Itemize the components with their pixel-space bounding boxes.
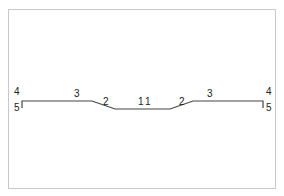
label-right-4: 4	[266, 86, 272, 97]
profile-diagram: 4 5 3 2 1 1 2 3 4 5	[0, 0, 284, 196]
label-center-1a: 1	[138, 96, 144, 107]
label-left-4: 4	[14, 86, 20, 97]
label-center-1b: 1	[145, 96, 151, 107]
label-left-2: 2	[103, 96, 109, 107]
label-right-5: 5	[266, 102, 272, 113]
label-left-3: 3	[74, 88, 80, 99]
label-right-3: 3	[207, 88, 213, 99]
label-left-5: 5	[14, 102, 20, 113]
label-right-2: 2	[179, 96, 185, 107]
